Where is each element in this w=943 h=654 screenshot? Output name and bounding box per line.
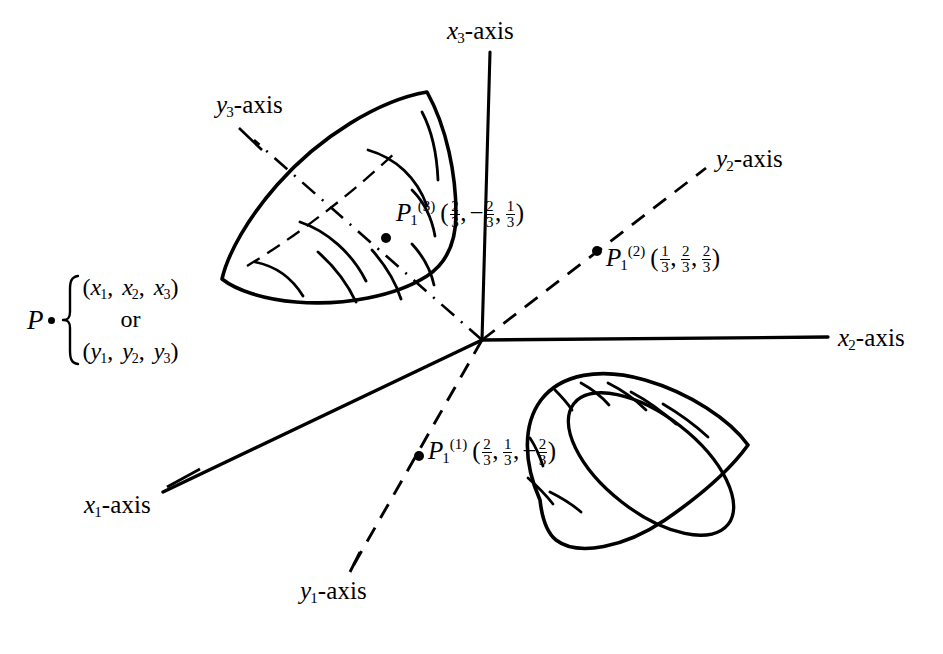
point-label-P1-1-sup: (1)	[450, 436, 468, 452]
axis-label-x2-word: -axis	[856, 324, 905, 351]
axis-label-y1-sub: 1	[310, 590, 318, 606]
coord-fraction: 13	[503, 437, 513, 468]
point-dot-P1-3	[381, 233, 391, 243]
point-label-P1-2: P1(2) (13,23,23)	[606, 244, 720, 275]
coord-fraction: 23	[681, 244, 691, 275]
axis-label-y3: y3-axis	[216, 92, 283, 120]
point-P-dot	[48, 317, 55, 324]
curly-brace-svg	[61, 274, 81, 366]
axis-label-x2: x2-axis	[838, 325, 905, 353]
coord-sign: −	[469, 199, 483, 226]
axis-label-y3-sub: 3	[226, 104, 234, 120]
coord-fraction: 23	[538, 437, 548, 468]
axis-line-x1	[163, 340, 482, 492]
point-dot-P1-1	[414, 451, 424, 461]
hatch-line	[550, 492, 581, 512]
axis-label-y2-word: -axis	[734, 145, 783, 172]
lower-right-cap	[527, 366, 757, 562]
hatch-line	[318, 252, 356, 302]
coord-row-y: (y1, y2, y3)	[83, 336, 179, 368]
point-label-P1-1: P1(1) (23,13,−23)	[428, 437, 556, 468]
point-label-P1-3-sup: (3)	[418, 198, 436, 214]
axis-label-x3: x3-axis	[447, 18, 514, 46]
coord-fraction: 13	[660, 244, 670, 275]
leader-line-y1	[350, 552, 360, 572]
point-label-P1-2-sub: 1	[620, 257, 628, 273]
coord-fraction: 23	[482, 437, 492, 468]
point-P-coord-stack: (x1, x2, x3) or (y1, y2, y3)	[83, 272, 179, 368]
axis-label-y3-word: -axis	[234, 91, 283, 118]
axis-label-x2-sub: 2	[848, 337, 856, 353]
coord-row-x: (x1, x2, x3)	[83, 272, 179, 304]
axis-label-x1: x1-axis	[84, 492, 151, 520]
hatch-line	[422, 112, 438, 180]
coord-sign: −	[522, 437, 536, 464]
point-label-P1-2-sup: (2)	[628, 243, 646, 259]
coord-fraction: 23	[450, 199, 460, 230]
point-label-P1-3-sub: 1	[410, 212, 418, 228]
point-dot-P1-2	[592, 246, 602, 256]
figure-canvas: x3-axis y3-axis y2-axis x2-axis x1-axis …	[0, 0, 943, 654]
axis-line-x2	[482, 337, 828, 340]
hatch-line	[255, 262, 303, 296]
coord-fraction: 23	[702, 244, 712, 275]
axis-label-x3-sub: 3	[457, 30, 465, 46]
axis-label-y2-sub: 2	[726, 158, 734, 174]
curly-brace-icon	[61, 274, 81, 366]
axis-label-x1-word: -axis	[102, 491, 151, 518]
axis-line-x3	[482, 52, 490, 340]
axis-label-y2: y2-axis	[716, 146, 783, 174]
axis-label-x1-sub: 1	[94, 504, 102, 520]
hatch-line	[555, 390, 572, 410]
point-P-legend: P (x1, x2, x3) or (y1, y2, y3)	[27, 272, 178, 368]
hatch-line	[300, 222, 366, 281]
leader-lines-group	[167, 128, 360, 572]
point-label-P1-1-base: P	[428, 437, 443, 464]
axis-label-y1-word: -axis	[318, 577, 367, 604]
axis-label-x3-word: -axis	[465, 17, 514, 44]
point-label-P1-1-sub: 1	[442, 450, 450, 466]
cap-inner-ellipse-lower	[544, 366, 758, 562]
point-label-P1-3-base: P	[396, 199, 411, 226]
coord-row-or: or	[120, 304, 140, 336]
point-P-symbol: P	[27, 305, 44, 336]
point-label-P1-3: P1(3) (23,−23,13)	[396, 199, 524, 230]
cap-inner-dashed-arc	[247, 150, 398, 266]
point-label-P1-2-base: P	[606, 244, 621, 271]
coord-fraction: 13	[506, 199, 516, 230]
coord-fraction: 23	[485, 199, 495, 230]
axis-label-y1: y1-axis	[300, 578, 367, 606]
leader-line-y3	[239, 128, 262, 150]
